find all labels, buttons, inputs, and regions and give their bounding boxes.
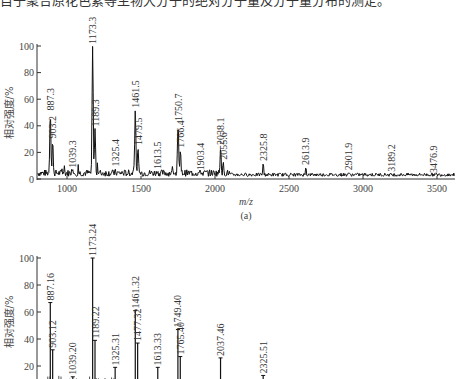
peak-label: 2325.8 xyxy=(258,134,269,162)
peak-label: 3189.2 xyxy=(386,144,397,172)
peak-label: 903.2 xyxy=(47,116,58,139)
x-tick-label: 3500 xyxy=(427,183,447,194)
peak-label: 1173.3 xyxy=(87,17,98,44)
y-tick-label: 80 xyxy=(24,280,34,291)
peak-label: 2037.46 xyxy=(215,323,226,356)
peak-label: 2901.9 xyxy=(343,143,354,171)
x-axis-label: m/z xyxy=(239,196,253,207)
y-tick-label: 100 xyxy=(19,41,34,52)
peak-label: 1477.32 xyxy=(132,309,143,342)
peak-label: 1613.33 xyxy=(152,333,163,366)
x-tick-label: 3000 xyxy=(353,183,373,194)
peak-label: 1613.5 xyxy=(152,142,163,170)
y-axis-label: 相对强度/% xyxy=(3,87,15,140)
peak-label: 903.12 xyxy=(47,320,58,348)
y-tick-label: 20 xyxy=(24,147,34,158)
peak-label: 1903.4 xyxy=(195,143,206,171)
spectrum-chart-b: 20406080100相对强度/%887.16903.121039.201173… xyxy=(3,224,455,379)
subplot-label: (a) xyxy=(240,210,251,222)
peak-label: 1461.5 xyxy=(130,80,141,108)
peak-label: 2055.6 xyxy=(218,132,229,160)
y-tick-label: 80 xyxy=(24,67,34,78)
peak-label: 1325.31 xyxy=(110,333,121,366)
peak-label: 1325.4 xyxy=(110,139,121,167)
peak-label: 1479.5 xyxy=(133,118,144,146)
y-tick-label: 20 xyxy=(24,361,34,372)
peak-label: 3476.9 xyxy=(428,146,439,174)
peak-label: 1766.4 xyxy=(175,120,186,148)
spectrum-chart-a: 020406080100相对强度/%1000150020002500300035… xyxy=(3,17,455,222)
y-tick-label: 60 xyxy=(24,307,34,318)
peak-label: 1173.24 xyxy=(87,224,98,256)
peak-label: 1461.32 xyxy=(130,276,141,309)
x-tick-label: 2000 xyxy=(205,183,225,194)
peak-label: 2613.9 xyxy=(300,138,311,166)
y-tick-label: 60 xyxy=(24,94,34,105)
y-tick-label: 40 xyxy=(24,334,34,345)
peak-label: 2325.51 xyxy=(258,341,269,374)
peak-label: 1189.22 xyxy=(90,306,101,338)
peak-label: 1039.3 xyxy=(67,140,78,168)
peak-label: 887.3 xyxy=(45,88,56,111)
peak-label: 1039.20 xyxy=(67,342,78,375)
x-tick-label: 1000 xyxy=(57,183,77,194)
peak-label: 887.16 xyxy=(45,273,56,301)
y-tick-label: 40 xyxy=(24,120,34,131)
peak-label: 1189.3 xyxy=(90,99,101,126)
mass-spectra-figure: 020406080100相对强度/%1000150020002500300035… xyxy=(0,0,456,379)
peak-label: 1750.7 xyxy=(173,94,184,122)
y-tick-label: 0 xyxy=(29,174,34,185)
x-tick-label: 1500 xyxy=(131,183,151,194)
x-tick-label: 2500 xyxy=(279,183,299,194)
y-tick-label: 100 xyxy=(19,253,34,264)
peak-label: 1765.40 xyxy=(175,322,186,355)
y-axis-label: 相对强度/% xyxy=(3,296,15,349)
